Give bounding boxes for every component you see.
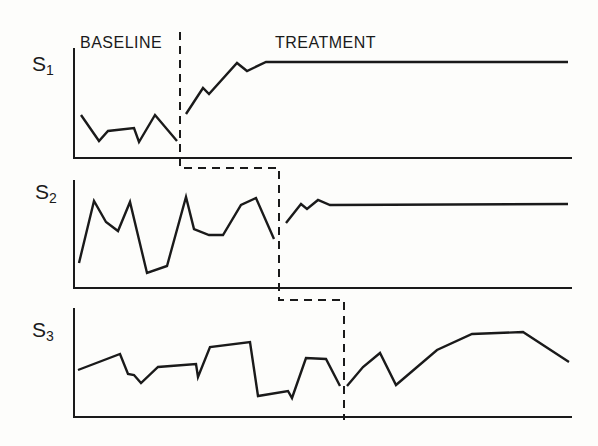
axes xyxy=(74,48,572,417)
s1-baseline-line xyxy=(81,115,177,142)
subject-label-s1: S1 xyxy=(32,52,54,78)
s2-treatment-line xyxy=(286,200,568,223)
phase-label-treatment: TREATMENT xyxy=(275,34,376,52)
axis-s3 xyxy=(74,308,572,417)
subject-label-s3: S3 xyxy=(32,318,54,344)
s2-baseline-line xyxy=(79,197,274,273)
multiple-baseline-chart xyxy=(0,0,598,446)
s3-baseline-line xyxy=(78,342,340,398)
s3-treatment-line xyxy=(347,332,569,386)
s1-treatment-line xyxy=(186,62,568,114)
data-lines xyxy=(78,62,569,398)
phase-label-baseline: BASELINE xyxy=(80,34,162,52)
axis-s1 xyxy=(74,48,572,158)
subject-label-s2: S2 xyxy=(35,180,57,206)
